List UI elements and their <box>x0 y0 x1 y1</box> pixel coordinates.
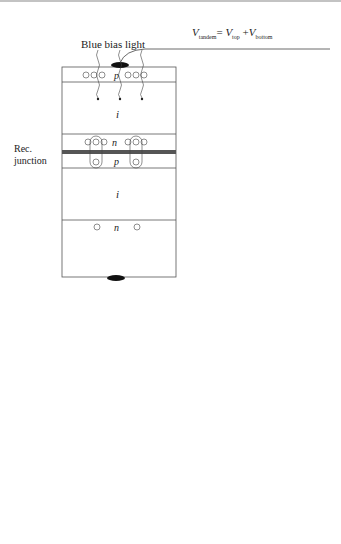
tandem-cell-diagram: Vtandem= Vtop +Vbottom Blue bias light p <box>0 0 341 544</box>
blue-bias-light-label: Blue bias light <box>81 38 145 50</box>
layer-mid-p: p <box>113 156 119 167</box>
layer-top-i: i <box>116 108 119 120</box>
layer-bottom-i: i <box>116 188 119 200</box>
layer-top-p: p <box>113 70 119 81</box>
photogenerated-carriers <box>97 98 143 100</box>
layer-bottom-n: n <box>114 222 119 233</box>
bias-light-rays <box>97 50 144 98</box>
panel-a: Vtandem= Vtop +Vbottom Blue bias light p <box>13 26 330 290</box>
layer-mid-n: n <box>112 137 117 148</box>
bottom-contact <box>107 275 125 281</box>
rec-junction-label: Rec. junction <box>13 143 47 166</box>
top-wire <box>120 49 330 63</box>
v-tandem-equation: Vtandem= Vtop +Vbottom <box>192 26 273 40</box>
recombination-junction-layer <box>62 150 176 154</box>
